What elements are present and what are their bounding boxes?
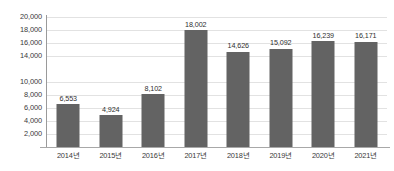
bar[interactable] xyxy=(99,115,122,147)
x-axis-category-label: 2019년 xyxy=(269,151,292,161)
bar[interactable] xyxy=(57,104,80,147)
bar-slot: 4,924 xyxy=(90,17,133,147)
bar[interactable] xyxy=(269,49,292,147)
bar-slot: 6,553 xyxy=(47,17,90,147)
x-axis-category-labels: 2014년2015년2016년2017년2018년2019년2020년2021년 xyxy=(47,151,387,165)
bar-value-label: 14,626 xyxy=(228,42,249,50)
y-axis-tick-label: 6,000 xyxy=(0,104,42,112)
y-axis-tick-label: 4,000 xyxy=(0,117,42,125)
bar-slot: 16,171 xyxy=(345,17,388,147)
x-axis-category-label: 2020년 xyxy=(312,151,335,161)
bar-value-label: 4,924 xyxy=(102,106,120,114)
bar-slot: 14,626 xyxy=(217,17,260,147)
bar-value-label: 15,092 xyxy=(270,39,291,47)
bar[interactable] xyxy=(354,42,377,147)
bar-chart: 20,00018,00016,00014,00010,0008,0006,000… xyxy=(0,0,394,171)
bar-slot: 16,239 xyxy=(302,17,345,147)
bar-value-label: 16,171 xyxy=(355,32,376,40)
y-axis-tick-label: 18,000 xyxy=(0,26,42,34)
x-axis-category-label: 2017년 xyxy=(184,151,207,161)
bar-slot: 15,092 xyxy=(260,17,303,147)
y-axis-tick-label: 8,000 xyxy=(0,91,42,99)
y-axis-tick-label: 2,000 xyxy=(0,130,42,138)
bar[interactable] xyxy=(312,41,335,147)
y-axis-tick-label: 14,000 xyxy=(0,52,42,60)
bar[interactable] xyxy=(184,30,207,147)
y-axis-tick-label: 20,000 xyxy=(0,13,42,21)
bar[interactable] xyxy=(227,52,250,147)
x-axis-category-label: 2018년 xyxy=(227,151,250,161)
bar-value-label: 16,239 xyxy=(313,32,334,40)
y-axis-tick-label: 16,000 xyxy=(0,39,42,47)
y-axis-tick-labels: 20,00018,00016,00014,00010,0008,0006,000… xyxy=(0,17,42,147)
bar-series: 6,5534,9248,10218,00214,62615,09216,2391… xyxy=(47,17,387,147)
x-axis-category-label: 2015년 xyxy=(99,151,122,161)
x-axis-category-label: 2016년 xyxy=(142,151,165,161)
bar-slot: 18,002 xyxy=(175,17,218,147)
bar-slot: 8,102 xyxy=(132,17,175,147)
bar-value-label: 8,102 xyxy=(145,85,163,93)
y-axis-tick-label: 10,000 xyxy=(0,78,42,86)
bar[interactable] xyxy=(142,94,165,147)
x-axis-category-label: 2014년 xyxy=(57,151,80,161)
bar-value-label: 18,002 xyxy=(185,21,206,29)
bar-value-label: 6,553 xyxy=(60,95,78,103)
x-axis-line xyxy=(40,147,390,148)
x-axis-category-label: 2021년 xyxy=(354,151,377,161)
